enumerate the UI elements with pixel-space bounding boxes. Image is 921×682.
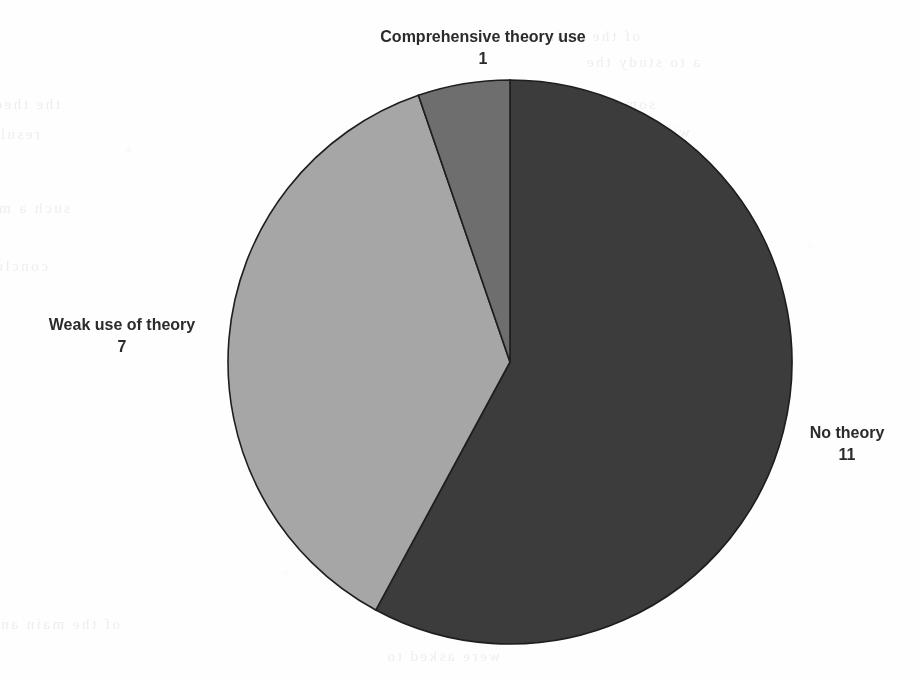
pie-slice-group: No theory 11Weak use of theory 7Comprehe… [228,80,792,644]
data-label-comprehensive-theory-use: Comprehensive theory use 1 [356,26,610,69]
pie-chart-page: of the main and a to study the some of w… [0,0,921,682]
data-label-value: 11 [786,444,908,466]
data-label-weak-use-of-theory: Weak use of theory 7 [24,314,220,357]
data-label-name: No theory [810,424,885,441]
data-label-value: 1 [356,48,610,70]
data-label-no-theory: No theory 11 [786,422,908,465]
data-label-value: 7 [24,336,220,358]
data-label-name: Weak use of theory [49,316,195,333]
data-label-name: Comprehensive theory use [380,28,585,45]
